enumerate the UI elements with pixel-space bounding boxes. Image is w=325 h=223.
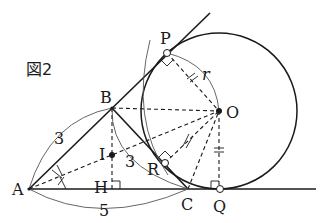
point-R	[162, 160, 169, 167]
angle-bisector-marks	[52, 165, 66, 189]
right-angle-P	[161, 60, 173, 66]
point-I	[109, 152, 115, 158]
length-r: r	[202, 65, 211, 84]
point-P	[164, 50, 171, 57]
label-P: P	[160, 29, 171, 48]
label-A: A	[11, 180, 24, 199]
label-Q: Q	[213, 197, 226, 216]
dashed-BO	[112, 108, 219, 111]
figure-title: 図2	[26, 60, 52, 79]
dashed-CO	[188, 111, 219, 189]
length-BC: 3	[125, 152, 135, 171]
line-AP	[29, 13, 210, 189]
length-AC: 5	[99, 201, 109, 220]
geometry-figure: 図2 A B C H I O P Q R 3 3 5 r	[0, 0, 325, 223]
label-H: H	[94, 178, 108, 197]
right-angle-R	[159, 151, 171, 157]
point-O	[216, 108, 222, 114]
point-A	[27, 187, 30, 190]
dashed-PO	[167, 53, 219, 111]
label-C: C	[181, 195, 193, 214]
label-O: O	[226, 103, 239, 122]
length-AB: 3	[54, 129, 64, 148]
label-I: I	[99, 145, 105, 164]
label-B: B	[100, 88, 112, 107]
label-R: R	[147, 160, 160, 179]
right-angle-H	[112, 181, 120, 189]
point-Q	[217, 186, 224, 193]
equal-mark-PO	[187, 73, 198, 82]
